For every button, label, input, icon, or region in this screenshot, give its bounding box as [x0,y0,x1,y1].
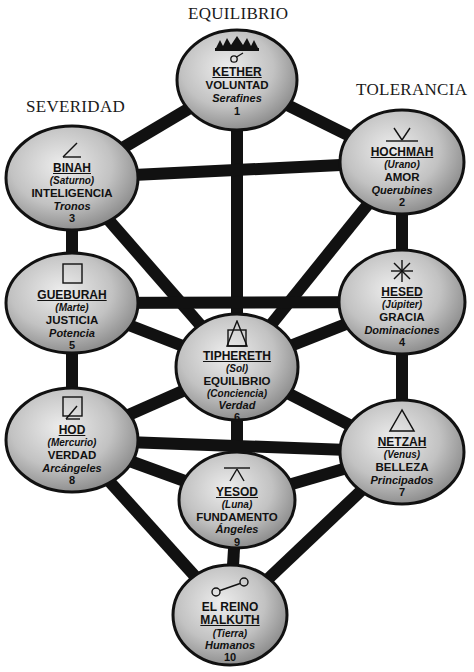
sephira-name: GUEBURAH [37,289,106,302]
sephira-number: 9 [234,536,240,548]
sephira-number: 7 [399,486,405,498]
sephira-choir: Serafines [212,92,262,104]
sephira-choir: Principados [371,474,434,486]
sephira-binah[interactable]: BINAH (Saturno) INTELIGENCIA Tronos 3 [6,132,138,230]
sephira-yesod[interactable]: YESOD (Luna) FUNDAMENTO Ángeles 9 [179,458,295,548]
mars-square-icon [59,259,85,287]
sephira-name: EL REINO [202,601,258,614]
sephira-planet: (Saturno) [50,175,94,186]
sun-triangle-square-icon [223,320,251,348]
sephira-kether[interactable]: KETHER VOLUNTAD Serafines 1 [177,36,297,130]
sephira-name: YESOD [216,486,258,499]
sephira-hochmah[interactable]: HOCHMAH (Urano) AMOR Querubines 2 [340,116,464,214]
sephira-number: 1 [234,105,240,117]
sephira-choir: Tronos [53,200,90,212]
sephira-planet: (Júpiter) [382,299,422,310]
uranus-icon [382,116,422,144]
sephira-number: 8 [69,474,75,486]
pillar-label-left: SEVERIDAD [26,97,125,117]
sephira-choir: Ángeles [216,523,259,535]
sephira-choir: Arcángeles [42,462,101,474]
sephira-number: 4 [399,336,405,348]
sephira-number: 3 [69,212,75,224]
sephira-name: HOCHMAH [371,146,434,159]
sephira-netzah[interactable]: NETZAH (Venus) BELLEZA Principados 7 [340,406,464,504]
mercury-square-angle-icon [58,394,86,422]
saturn-angle-icon [57,132,87,160]
sephira-name-secondary: MALKUTH [200,614,259,627]
sephira-quality: EQUILIBRIO [203,375,270,388]
sephira-planet: (Marte) [55,302,88,313]
sephira-name: KETHER [212,66,261,79]
sephira-name: HOD [59,424,86,437]
sephira-quality: JUSTICIA [46,314,98,327]
jupiter-star-icon [388,256,416,284]
sephira-planet: (Luna) [222,499,253,510]
moon-caret-icon [221,458,253,484]
sephira-planet: (Mercurio) [48,437,97,448]
sephira-quality: INTELIGENCIA [31,187,112,200]
sephira-quality: VOLUNTAD [205,79,268,92]
sephira-planet: (Sol) [226,363,248,374]
venus-triangle-icon [387,406,417,434]
sephira-number: 6 [234,411,240,423]
sephira-number: 2 [399,196,405,208]
sephira-gueburah[interactable]: GUEBURAH (Marte) JUSTICIA Potencia 5 [6,259,138,353]
sephira-hesed[interactable]: HESED (Júpiter) GRACIA Dominaciones 4 [339,256,465,354]
sephira-choir: Dominaciones [364,324,439,336]
sephira-name: TIPHERETH [203,350,271,363]
sephira-planet: (Urano) [384,159,420,170]
sephira-number: 5 [69,339,75,351]
pillar-label-center: EQUILIBRIO [188,4,288,24]
crown-icon [212,36,262,64]
sephira-name: BINAH [53,162,91,175]
sephira-choir: Querubines [371,184,432,196]
sephira-quality: BELLEZA [375,461,428,474]
sephira-choir: Potencia [49,327,95,339]
sephira-quality: FUNDAMENTO [196,511,278,524]
sephira-quality: GRACIA [379,311,424,324]
earth-dumbbell-icon [208,571,252,599]
sephira-malkuth[interactable]: EL REINO MALKUTH (Tierra) Humanos 10 [173,571,287,665]
sephira-planet: (Tierra) [213,628,247,639]
sephira-choir: Humanos [205,639,255,651]
sephira-name: HESED [381,286,422,299]
sephira-quality: AMOR [384,171,419,184]
sephira-number: 10 [224,651,236,663]
sephira-choir: Verdad [219,399,256,411]
pillar-label-right: TOLERANCIA [356,80,467,100]
sephira-planet: (Venus) [384,449,420,460]
sephira-hod[interactable]: HOD (Mercurio) VERDAD Arcángeles 8 [6,394,138,492]
sephira-name: NETZAH [378,436,427,449]
sephira-conscience: (Conciencia) [207,388,267,399]
sephira-quality: VERDAD [48,449,97,462]
sephira-tiphereth[interactable]: TIPHERETH (Sol) EQUILIBRIO (Conciencia) … [176,320,298,420]
